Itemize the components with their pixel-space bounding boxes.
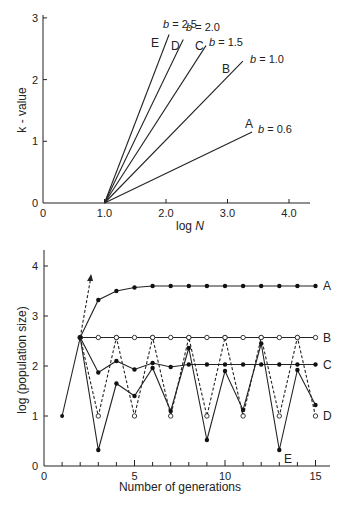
marker-e [295,368,299,372]
marker-a [295,284,299,288]
arrowhead-icon [87,274,93,281]
marker-a [259,284,263,288]
top-y-tick-label: 3 [32,12,38,24]
marker-c [187,362,191,366]
marker-b [241,335,245,339]
marker-a [223,284,227,288]
marker-c [132,367,136,371]
marker-b [132,335,136,339]
marker-a [205,284,209,288]
series-letter-b: B [323,331,331,345]
marker-e [205,438,209,442]
top-x-tick-label: 0 [40,207,46,219]
bottom-x-tick-label: 15 [309,470,321,482]
curve-letter-d: D [171,39,180,53]
series-letter-d: D [323,409,332,423]
marker-c [295,362,299,366]
marker-e [313,403,317,407]
marker-c [205,362,209,366]
exponential-growth-arrow [80,276,91,338]
marker-d [205,414,209,418]
bottom-lines: ABCDE [60,274,332,466]
marker-b [150,335,154,339]
b-label-c: b = 1.5 [209,36,243,48]
marker-c [313,362,317,366]
top-x-tick-label: 2.0 [158,207,173,219]
bottom-y-tick-label: 4 [32,260,38,272]
marker-e [187,346,191,350]
series-letter-c: C [323,358,332,372]
marker-c [241,362,245,366]
bottom-y-tick-label: 1 [32,410,38,422]
b-label-b: b = 1.0 [250,53,284,65]
marker-e [277,448,281,452]
marker-b [169,335,173,339]
marker-c [114,359,118,363]
top-ticks: 01.02.03.04.00123 [32,12,297,219]
bottom-y-axis-label: log (population size) [15,306,29,413]
top-y-tick-label: 2 [32,74,38,86]
marker-b [187,335,191,339]
marker-d [241,414,245,418]
k-line-b [105,61,243,203]
b-label-a: b = 0.6 [258,123,292,135]
marker-b [295,335,299,339]
top-y-tick-label: 0 [32,197,38,209]
marker-e [223,369,227,373]
marker-e [259,341,263,345]
marker-b [223,335,227,339]
marker-a [241,284,245,288]
series-line-d [80,338,315,417]
figure: 01.02.03.04.00123 Ab = 0.6Bb = 1.0Cb = 1… [0,0,345,508]
marker-c [150,361,154,365]
marker-a [78,335,82,339]
curve-letter-c: C [195,39,204,53]
bottom-y-tick-label: 3 [32,310,38,322]
marker-b [277,335,281,339]
k-line-a [105,132,253,203]
top-lines: Ab = 0.6Bb = 1.0Cb = 1.5Db = 2.0Eb = 2.5 [105,18,292,203]
marker-d [96,414,100,418]
marker-a [169,284,173,288]
marker-e [150,366,154,370]
marker-a [277,284,281,288]
marker-d [169,414,173,418]
top-x-tick-label: 3.0 [220,207,235,219]
marker-a [96,298,100,302]
curve-letter-e: E [151,36,159,50]
marker-c [96,370,100,374]
series-line-e [80,338,315,451]
marker-d [132,414,136,418]
k-value-chart: 01.02.03.04.00123 Ab = 0.6Bb = 1.0Cb = 1… [15,12,310,233]
marker-b [96,335,100,339]
marker-b [205,335,209,339]
curve-letter-b: B [222,62,230,76]
marker-e [114,381,118,385]
bottom-y-tick-label: 0 [32,460,38,472]
k-line-d [105,39,184,203]
marker-c [169,365,173,369]
marker-e [241,408,245,412]
population-chart: 05101501234 ABCDE log (population size) … [15,250,332,494]
initial-point [60,414,64,418]
initial-growth-line [62,338,80,417]
top-y-axis-label: k - value [15,87,29,133]
marker-c [277,362,281,366]
marker-b [114,335,118,339]
marker-a [187,284,191,288]
marker-e [169,409,173,413]
marker-a [313,284,317,288]
marker-a [132,285,136,289]
marker-c [259,362,263,366]
series-letter-a: A [323,279,331,293]
bottom-x-axis-label: Number of generations [119,480,241,494]
bottom-y-tick-label: 2 [32,360,38,372]
marker-b [259,335,263,339]
top-y-tick-label: 1 [32,135,38,147]
marker-d [277,414,281,418]
marker-e [96,448,100,452]
series-line-a [80,286,315,338]
series-letter-e: E [284,452,292,466]
marker-a [114,289,118,293]
curve-letter-a: A [245,117,253,131]
